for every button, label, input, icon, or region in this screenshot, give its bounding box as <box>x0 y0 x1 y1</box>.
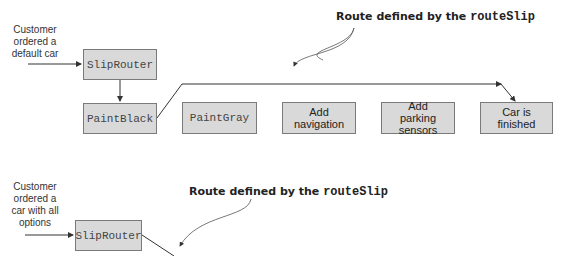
input-note-all-options: Customer ordered a car with all options <box>3 181 67 229</box>
step-add-navigation: Add navigation <box>282 102 356 134</box>
note-line: Customer <box>3 181 67 193</box>
step-paint-gray: PaintGray <box>182 102 257 134</box>
callout-text: Route defined by the <box>189 185 323 198</box>
step-paint-black: PaintBlack <box>83 103 157 134</box>
step-add-parking-sensors: Add parking sensors <box>381 102 455 134</box>
note-line: ordered a <box>3 193 67 205</box>
note-line: options <box>3 217 67 229</box>
route-slip-callout-top: Route defined by the routeSlip <box>336 10 535 24</box>
callout-code: routeSlip <box>470 10 535 24</box>
callout-code: routeSlip <box>323 185 388 199</box>
note-line: Customer <box>2 24 68 36</box>
box-label: SlipRouter <box>76 230 142 242</box>
note-line: ordered a <box>2 36 68 48</box>
box-label: Add navigation <box>283 106 355 130</box>
slip-router-box-bottom: SlipRouter <box>75 220 142 251</box>
route-slip-callout-bottom: Route defined by the routeSlip <box>189 185 388 199</box>
box-label: PaintGray <box>190 112 249 124</box>
input-note-default-car: Customer ordered a default car <box>2 24 68 60</box>
note-line: default car <box>2 48 68 60</box>
note-line: car with all <box>3 205 67 217</box>
slip-router-box-top: SlipRouter <box>83 49 157 80</box>
box-label: Car is finished <box>498 106 536 130</box>
box-label: SlipRouter <box>87 59 153 71</box>
box-label: Add parking sensors <box>390 100 446 136</box>
callout-text: Route defined by the <box>336 10 470 23</box>
step-car-finished: Car is finished <box>480 102 553 134</box>
box-label: PaintBlack <box>87 113 153 125</box>
